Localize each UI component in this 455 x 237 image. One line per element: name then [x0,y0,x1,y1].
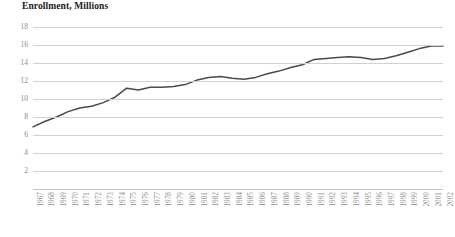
x-tick-label-1981: 1981 [201,192,208,207]
x-tick-label-1968: 1968 [48,192,55,207]
y-tick-label-6: 6 [7,131,28,139]
x-axis-tick-labels: 1967196819691970197119721973197419751976… [33,192,443,237]
x-tick-label-1984: 1984 [236,192,243,207]
x-axis-line [33,189,443,190]
y-tick-label-12: 12 [7,77,28,85]
gridline-6 [33,135,443,136]
x-tick-label-1972: 1972 [95,192,102,207]
x-tick-label-1983: 1983 [224,192,231,207]
gridline-12 [33,81,443,82]
x-tick-label-2001: 2001 [435,192,442,207]
x-tick-label-1989: 1989 [294,192,301,207]
x-tick-label-1998: 1998 [400,192,407,207]
plot-area [33,27,443,189]
x-tick-label-1977: 1977 [154,192,161,207]
x-tick-label-1974: 1974 [119,192,126,207]
gridline-16 [33,45,443,46]
gridline-8 [33,117,443,118]
x-tick-label-1978: 1978 [165,192,172,207]
series-polyline [33,46,443,127]
y-tick-label-16: 16 [7,41,28,49]
x-tick-label-1992: 1992 [329,192,336,207]
y-tick-label-14: 14 [7,59,28,67]
x-tick-label-1996: 1996 [376,192,383,207]
x-tick-label-1987: 1987 [271,192,278,207]
y-tick-label-18: 18 [7,23,28,31]
x-tick-label-1991: 1991 [318,192,325,207]
x-tick-label-1970: 1970 [72,192,79,207]
y-tick-label-8: 8 [7,113,28,121]
y-tick-label-4: 4 [7,149,28,157]
x-tick-label-1990: 1990 [306,192,313,207]
x-tick-label-1976: 1976 [142,192,149,207]
gridline-10 [33,99,443,100]
x-tick-label-1979: 1979 [177,192,184,207]
x-tick-label-1988: 1988 [283,192,290,207]
x-tick-label-2000: 2000 [423,192,430,207]
x-tick-label-1995: 1995 [365,192,372,207]
x-tick-label-1994: 1994 [353,192,360,207]
x-tick-label-1982: 1982 [212,192,219,207]
x-tick-label-1975: 1975 [130,192,137,207]
x-tick-label-1980: 1980 [189,192,196,207]
enrollment-line-series [33,27,443,189]
gridline-2 [33,171,443,172]
gridline-14 [33,63,443,64]
x-tick-label-1973: 1973 [107,192,114,207]
x-tick-label-1969: 1969 [60,192,67,207]
chart-title: Enrollment, Millions [22,1,108,11]
x-tick-label-1997: 1997 [388,192,395,207]
gridline-18 [33,27,443,28]
x-tick-label-1999: 1999 [411,192,418,207]
x-tick-label-1985: 1985 [247,192,254,207]
x-tick-label-1971: 1971 [83,192,90,207]
y-tick-label-2: 2 [7,167,28,175]
y-tick-label-10: 10 [7,95,28,103]
x-tick-label-2002: 2002 [447,192,454,207]
x-tick-label-1967: 1967 [37,192,44,207]
x-tick-label-1993: 1993 [341,192,348,207]
x-tick-label-1986: 1986 [259,192,266,207]
gridline-4 [33,153,443,154]
